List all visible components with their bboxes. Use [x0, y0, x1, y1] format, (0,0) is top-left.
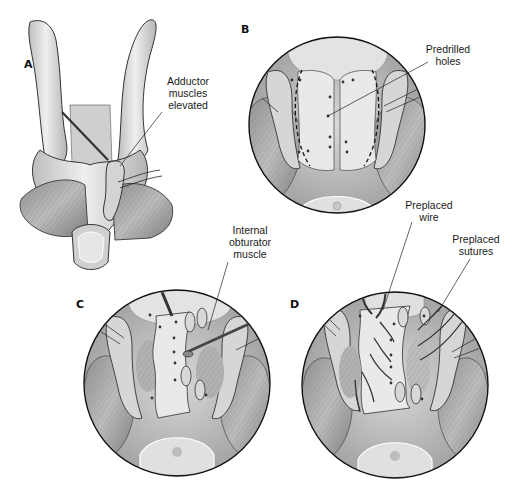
callout-preplaced-sutures: Preplaced sutures — [447, 233, 505, 257]
callout-line: sutures — [447, 245, 505, 257]
callout-adductor-muscles-elevated: Adductor muscles elevated — [160, 75, 216, 111]
callout-line: Predrilled — [418, 43, 478, 55]
callout-internal-obturator-muscle: Internal obturator muscle — [222, 224, 278, 260]
panel-a-illustration — [20, 20, 173, 270]
panel-label-c: C — [76, 298, 84, 311]
callout-line: Preplaced — [447, 233, 505, 245]
panel-d-illustration — [301, 222, 489, 480]
panel-label-a: A — [24, 58, 33, 71]
panel-label-b: B — [241, 23, 249, 36]
callout-line: Internal — [222, 224, 278, 236]
panel-c-illustration — [83, 262, 271, 478]
callout-line: Adductor — [160, 75, 216, 87]
callout-line: holes — [418, 55, 478, 67]
callout-preplaced-wire: Preplaced wire — [400, 199, 458, 223]
callout-line: Preplaced — [400, 199, 458, 211]
callout-line: obturator — [222, 236, 278, 248]
panel-b-illustration — [243, 31, 430, 225]
callout-line: muscles — [160, 87, 216, 99]
callout-line: elevated — [160, 99, 216, 111]
callout-predrilled-holes: Predrilled holes — [418, 43, 478, 67]
callout-line: wire — [400, 211, 458, 223]
panel-label-d: D — [290, 298, 299, 311]
callout-line: muscle — [222, 248, 278, 260]
